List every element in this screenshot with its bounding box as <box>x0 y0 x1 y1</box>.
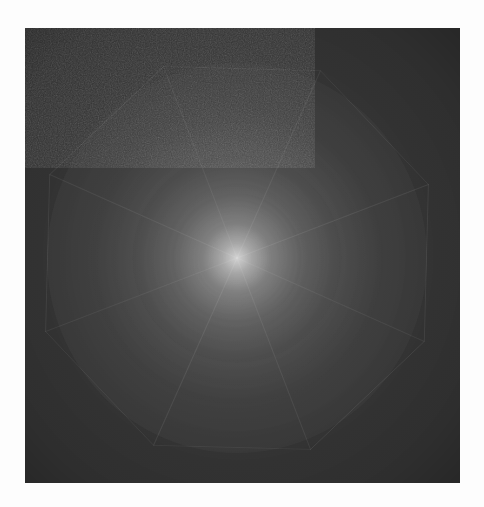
woven-mesh-grid <box>25 28 460 483</box>
dark-square-plate <box>25 28 460 483</box>
softness-wrapper <box>25 28 460 483</box>
image-canvas-page <box>0 0 484 507</box>
mesh-texture-svg <box>25 28 460 483</box>
star-shape-svg <box>25 28 460 483</box>
radial-star-figure <box>25 28 460 483</box>
